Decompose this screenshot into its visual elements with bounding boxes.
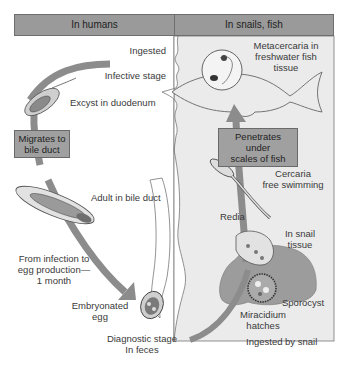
label-sporocyst: Sporocyst: [282, 297, 324, 308]
label-metacercaria-line-3: tissue: [244, 62, 328, 73]
label-miracidium-hatches: Miracidium hatches: [232, 309, 294, 331]
label-from-infection-line-2: egg production—: [14, 264, 94, 275]
label-ingested: Ingested: [110, 45, 166, 56]
box-penetrates-under-scales: Penetrates under scales of fish: [218, 128, 298, 167]
label-from-infection-line-1: From infection to: [14, 253, 94, 264]
box-penetrates-line-2: scales of fish: [222, 153, 294, 164]
header-in-snails-fish: In snails, fish: [174, 14, 334, 36]
box-migrates-to-bile-duct: Migrates to bile duct: [14, 130, 70, 158]
label-metacercaria: Metacercaria in freshwater fish tissue: [244, 40, 328, 73]
box-migrates-line-1: Migrates to: [18, 133, 66, 144]
label-redia: Redia: [220, 211, 245, 222]
label-adult-in-bile-duct: Adult in bile duct: [91, 192, 161, 203]
label-egg-line-1: Embryonated: [70, 300, 130, 311]
label-ingested-by-snail: Ingested by snail: [246, 336, 317, 347]
label-egg-line-2: egg: [70, 311, 130, 322]
adult-fluke: [12, 179, 98, 231]
label-diagnostic-stage: Diagnostic stage In feces: [102, 333, 182, 355]
box-penetrates-line-1: Penetrates under: [222, 131, 294, 153]
label-metacercaria-line-1: Metacercaria in: [244, 40, 328, 51]
sporocyst: [248, 274, 276, 302]
label-from-infection-line-3: 1 month: [14, 275, 94, 286]
label-miracidium-line-2: hatches: [232, 320, 294, 331]
life-cycle-diagram: In humans In snails, fish Ingested Infec…: [0, 0, 340, 374]
label-cercaria: Cercaria free swimming: [258, 168, 328, 190]
label-diagnostic-line-2: In feces: [102, 344, 182, 355]
label-cercaria-line-1: Cercaria: [258, 168, 328, 179]
label-snail-tissue-line-1: In snail: [278, 228, 322, 239]
header-in-humans: In humans: [14, 14, 175, 36]
label-excyst: Excyst in duodenum: [70, 97, 156, 108]
label-snail-tissue-line-2: tissue: [278, 239, 322, 250]
label-cercaria-line-2: free swimming: [258, 179, 328, 190]
label-metacercaria-line-2: freshwater fish: [244, 51, 328, 62]
label-embryonated-egg: Embryonated egg: [70, 300, 130, 322]
label-in-snail-tissue: In snail tissue: [278, 228, 322, 250]
box-migrates-line-2: bile duct: [18, 144, 66, 155]
label-infective-stage: Infective stage: [90, 70, 166, 81]
label-from-infection: From infection to egg production— 1 mont…: [14, 253, 94, 286]
label-diagnostic-line-1: Diagnostic stage: [102, 333, 182, 344]
label-miracidium-line-1: Miracidium: [232, 309, 294, 320]
